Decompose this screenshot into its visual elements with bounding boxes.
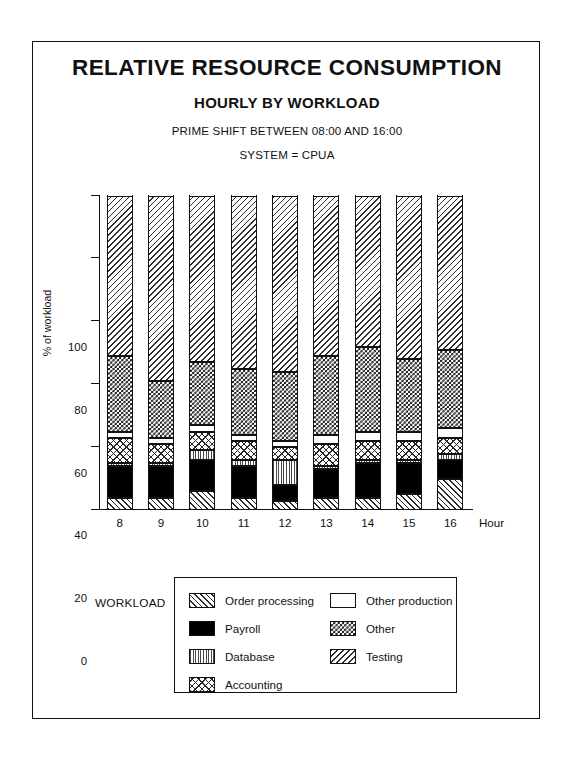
x-axis-tick-label: 10 (182, 516, 222, 529)
legend-swatch-accounting (189, 677, 215, 692)
bar-segment-order[interactable] (273, 501, 297, 510)
bar-segment-accounting[interactable] (108, 438, 132, 463)
bar-segment-otherprod[interactable] (314, 435, 338, 444)
x-axis-tick-label: 8 (100, 516, 140, 529)
bar-segment-other[interactable] (273, 372, 297, 441)
legend-item-payroll[interactable]: Payroll (189, 618, 314, 639)
x-axis-tick-label: 16 (430, 516, 470, 529)
bar-hour-14[interactable] (355, 195, 381, 509)
plot-bars (99, 195, 471, 509)
bar-segment-payroll[interactable] (438, 460, 462, 479)
legend-title: WORKLOAD (95, 596, 165, 610)
bar-segment-order[interactable] (314, 498, 338, 511)
x-axis-title: Hour (479, 516, 504, 529)
bar-segment-other[interactable] (314, 356, 338, 435)
bar-segment-testing[interactable] (108, 196, 132, 356)
bar-segment-payroll[interactable] (314, 469, 338, 497)
y-axis-tick (91, 320, 99, 321)
y-axis-tick (91, 446, 99, 447)
bar-segment-testing[interactable] (190, 196, 214, 362)
y-axis-tick-label: 40 (57, 530, 87, 541)
bar-segment-order[interactable] (356, 498, 380, 511)
x-axis-tick-label: 15 (389, 516, 429, 529)
bar-segment-accounting[interactable] (314, 444, 338, 466)
bar-segment-testing[interactable] (149, 196, 173, 381)
bar-segment-otherprod[interactable] (438, 428, 462, 437)
bar-segment-other[interactable] (356, 347, 380, 432)
y-axis-tick-label: 100 (57, 342, 87, 353)
bar-segment-testing[interactable] (397, 196, 421, 359)
bar-segment-order[interactable] (438, 479, 462, 510)
x-axis-tick-label: 11 (224, 516, 264, 529)
legend-swatch-payroll (189, 621, 215, 636)
bar-segment-payroll[interactable] (108, 466, 132, 497)
bar-segment-other[interactable] (108, 356, 132, 431)
y-axis-tick (91, 509, 99, 510)
bar-segment-database[interactable] (190, 450, 214, 459)
bar-segment-accounting[interactable] (438, 438, 462, 454)
legend-box: Order processingPayrollDatabaseAccountin… (174, 577, 457, 693)
legend-label-accounting: Accounting (225, 678, 282, 691)
legend-item-accounting[interactable]: Accounting (189, 674, 314, 695)
legend-label-order-processing: Order processing (225, 594, 314, 607)
bar-hour-12[interactable] (272, 195, 298, 509)
bar-hour-13[interactable] (313, 195, 339, 509)
bar-segment-accounting[interactable] (232, 441, 256, 460)
legend-item-other-production[interactable]: Other production (330, 590, 452, 611)
bar-segment-accounting[interactable] (356, 441, 380, 460)
bar-segment-other[interactable] (232, 369, 256, 435)
bar-segment-order[interactable] (232, 498, 256, 511)
bar-segment-payroll[interactable] (190, 460, 214, 491)
legend-item-database[interactable]: Database (189, 646, 314, 667)
legend-label-database: Database (225, 650, 275, 663)
bar-segment-other[interactable] (149, 381, 173, 438)
bar-hour-9[interactable] (148, 195, 174, 509)
bar-segment-testing[interactable] (232, 196, 256, 369)
y-axis-tick-label: 0 (57, 656, 87, 667)
y-axis-tick-label: 80 (57, 405, 87, 416)
legend-swatch-order-processing (189, 593, 215, 608)
bar-segment-other[interactable] (190, 362, 214, 425)
legend-swatch-other-production (330, 593, 356, 608)
legend-item-order-processing[interactable]: Order processing (189, 590, 314, 611)
legend-item-testing[interactable]: Testing (330, 646, 452, 667)
bar-segment-order[interactable] (190, 491, 214, 510)
x-axis-tick-label: 12 (265, 516, 305, 529)
bar-segment-order[interactable] (149, 498, 173, 511)
bar-segment-otherprod[interactable] (356, 432, 380, 441)
bar-segment-accounting[interactable] (190, 432, 214, 451)
bar-hour-15[interactable] (396, 195, 422, 509)
bar-segment-otherprod[interactable] (397, 432, 421, 441)
bar-segment-payroll[interactable] (397, 463, 421, 494)
bar-segment-testing[interactable] (438, 196, 462, 350)
legend-swatch-other (330, 621, 356, 636)
bar-segment-accounting[interactable] (397, 441, 421, 460)
legend-column-2: Other productionOtherTesting (330, 590, 452, 674)
bar-segment-accounting[interactable] (273, 447, 297, 460)
bar-segment-other[interactable] (438, 350, 462, 429)
bar-segment-testing[interactable] (273, 196, 297, 372)
bar-segment-testing[interactable] (314, 196, 338, 356)
bar-segment-payroll[interactable] (232, 466, 256, 497)
legend-item-other[interactable]: Other (330, 618, 452, 639)
bar-segment-order[interactable] (397, 494, 421, 510)
bar-hour-8[interactable] (107, 195, 133, 509)
bar-segment-other[interactable] (397, 359, 421, 431)
y-axis-tick (91, 195, 99, 196)
bar-segment-order[interactable] (108, 498, 132, 511)
legend-swatch-database (189, 649, 215, 664)
legend-label-payroll: Payroll (225, 622, 260, 635)
y-axis-tick-label: 20 (57, 593, 87, 604)
x-axis-tick-label: 13 (306, 516, 346, 529)
bar-hour-11[interactable] (231, 195, 257, 509)
bar-segment-payroll[interactable] (149, 466, 173, 497)
bar-hour-10[interactable] (189, 195, 215, 509)
bar-segment-testing[interactable] (356, 196, 380, 347)
bar-segment-database[interactable] (273, 460, 297, 485)
bar-segment-payroll[interactable] (356, 463, 380, 498)
bar-segment-payroll[interactable] (273, 485, 297, 501)
y-axis-labels: 020406080100 (49, 195, 87, 509)
bar-segment-accounting[interactable] (149, 444, 173, 463)
bar-hour-16[interactable] (437, 195, 463, 509)
figure-frame: RELATIVE RESOURCE CONSUMPTION HOURLY BY … (32, 41, 540, 719)
